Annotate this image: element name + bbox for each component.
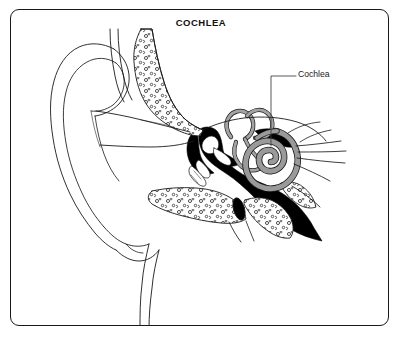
- figure-root: COCHLEA: [0, 0, 402, 338]
- ear-anatomy-illustration: [0, 0, 402, 338]
- upper-canal-lines: [110, 29, 132, 102]
- temporal-bone-upper: [134, 29, 203, 136]
- spiral-cochlea: [246, 131, 298, 189]
- neck-contour: [126, 244, 159, 329]
- callout-label-cochlea: Cochlea: [298, 69, 330, 79]
